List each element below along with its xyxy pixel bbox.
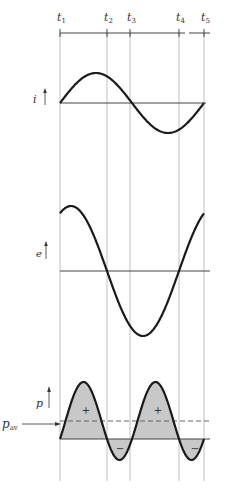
minus-sign: −: [116, 443, 124, 454]
time-label: t4: [176, 11, 185, 25]
current-plot: i: [33, 73, 206, 133]
arrowhead-icon: [43, 88, 47, 93]
time-label: t3: [127, 11, 136, 25]
plus-sign: +: [82, 405, 90, 416]
voltage-plot: e: [36, 206, 210, 336]
svg-text:p: p: [36, 397, 43, 410]
waveform-diagram: t1t2t3t4t5 i e ++−− p pav: [0, 0, 228, 498]
current-label: i: [33, 88, 47, 106]
time-label: t2: [104, 11, 113, 25]
voltage-label: e: [36, 241, 48, 259]
svg-text:i: i: [33, 93, 37, 106]
svg-text:e: e: [36, 248, 42, 259]
average-power-label: pav: [2, 417, 61, 432]
arrowhead-icon: [44, 241, 48, 246]
plus-sign: +: [154, 405, 162, 416]
time-label: t1: [57, 11, 66, 25]
time-label: t5: [201, 11, 210, 25]
arrowhead-icon: [47, 386, 51, 392]
time-axis: [60, 29, 210, 37]
minus-sign: −: [191, 443, 199, 454]
svg-text:pav: pav: [2, 417, 18, 432]
time-labels: t1t2t3t4t5: [57, 11, 210, 25]
power-label: p: [36, 386, 51, 410]
